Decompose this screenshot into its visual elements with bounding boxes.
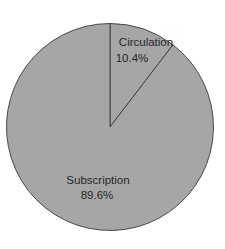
- slice-label-circulation: Circulation: [119, 36, 173, 48]
- slice-value-subscription: 89.6%: [81, 189, 114, 201]
- pie-chart: Circulation 10.4% Subscription 89.6%: [0, 0, 225, 249]
- slice-value-circulation: 10.4%: [116, 52, 149, 64]
- slice-label-subscription: Subscription: [66, 174, 129, 186]
